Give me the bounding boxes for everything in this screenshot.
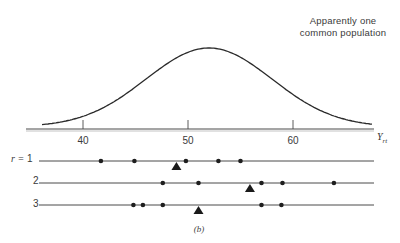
sample-row-1 [39,159,374,170]
row-number-2: 2 [33,175,39,186]
data-point [131,203,136,208]
data-point [184,159,189,164]
row-label-3: 3 [33,198,39,209]
population-annotation: Apparently one common population [288,15,398,39]
sample-mean-triangle-icon [245,184,255,192]
tick-label-50: 50 [182,135,193,146]
data-point [132,159,137,164]
data-point [238,159,243,164]
sample-rows [39,159,374,214]
data-point [332,181,337,186]
data-point [161,181,166,186]
tick-label-60: 60 [287,135,298,146]
sample-mean-triangle-icon [171,162,181,170]
row-prefix: r = [11,153,24,164]
row-number-1: 1 [27,153,33,164]
sample-mean-triangle-icon [194,206,204,214]
data-point [259,181,264,186]
x-axis-label: Yrt [377,131,387,145]
data-point [99,159,104,164]
data-point [280,181,285,186]
row-label-2: 2 [33,175,39,186]
annotation-line-2: common population [288,27,398,39]
row-label-1: r = 1 [11,153,32,164]
x-axis-ticks [83,120,293,129]
sample-row-2 [39,181,374,192]
x-axis-label-sub: rt [383,137,388,145]
annotation-line-1: Apparently one [288,15,398,27]
data-point [161,203,166,208]
data-point [259,203,264,208]
data-point [141,203,146,208]
data-point [196,181,201,186]
row-number-3: 3 [33,198,39,209]
tick-label-40: 40 [77,135,88,146]
figure-caption: (b) [194,224,205,234]
sample-row-3 [39,203,374,214]
population-density-curve [42,48,372,125]
data-point [216,159,221,164]
data-point [279,203,284,208]
